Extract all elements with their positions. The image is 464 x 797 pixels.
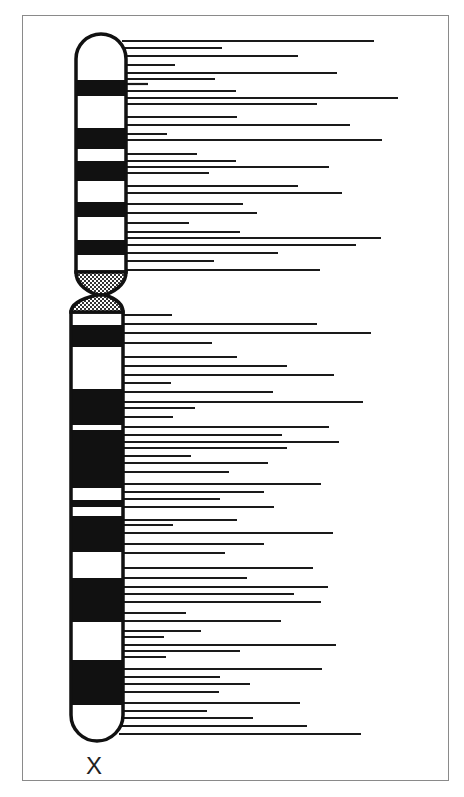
chromosome-diagram: [0, 0, 464, 797]
chromosome-band: [71, 622, 123, 660]
locus-lines: [119, 41, 398, 734]
chromosome-band: [76, 96, 126, 128]
chromosome-band: [71, 425, 123, 430]
chromosome-band: [71, 430, 123, 488]
chromosome-band: [71, 312, 123, 325]
chromosome-band: [71, 507, 123, 516]
chromosome-band: [71, 389, 123, 425]
chromosome-band: [71, 578, 123, 622]
chromosome-band: [71, 516, 123, 552]
chromosome-band: [76, 149, 126, 161]
chromosome-band: [76, 202, 126, 217]
chromosome-band: [76, 217, 126, 240]
chromosome-band: [71, 660, 123, 705]
chromosome-band: [71, 488, 123, 500]
chromosome-band: [76, 161, 126, 181]
centromere: [76, 272, 126, 295]
chromosome-label: X: [82, 752, 106, 780]
chromosome-band: [71, 325, 123, 347]
chromosome-band: [76, 240, 126, 255]
centromere: [71, 295, 123, 312]
chromosome-band: [76, 255, 126, 272]
chromosome-band: [76, 80, 126, 96]
chromosome-band: [76, 128, 126, 149]
chromosome-x: [71, 34, 126, 741]
chromosome-band: [71, 552, 123, 578]
chromosome-band: [71, 500, 123, 507]
chromosome-band: [71, 347, 123, 389]
chromosome-band: [76, 181, 126, 202]
